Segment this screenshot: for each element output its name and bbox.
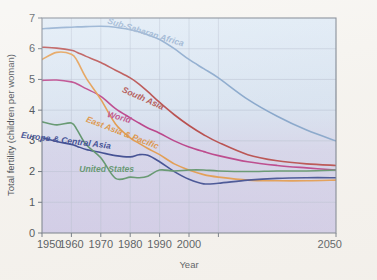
series-label-united-states: United States [79, 164, 134, 174]
x-tick-label: 1960 [59, 238, 83, 250]
x-tick-label: 2050 [318, 238, 342, 250]
x-tick-label: 1950 [37, 238, 61, 250]
y-tick-label: 0 [29, 227, 35, 239]
y-tick-label: 7 [29, 12, 35, 24]
x-axis-title: Year [179, 259, 198, 270]
y-tick-label: 4 [29, 104, 35, 116]
chart-canvas: 1950196019701980199020002050 01234567 Su… [0, 0, 377, 280]
fertility-line-chart: 1950196019701980199020002050 01234567 Su… [0, 0, 377, 280]
x-tick-label: 1990 [147, 238, 171, 250]
chart-figure: 1950196019701980199020002050 01234567 Su… [0, 0, 377, 280]
y-axis-title: Total fertility (children per woman) [5, 54, 16, 196]
y-tick-label: 2 [29, 165, 35, 177]
y-tick-label: 1 [29, 196, 35, 208]
x-tick-label: 2000 [177, 238, 201, 250]
x-tick-label: 1980 [118, 238, 142, 250]
y-tick-label: 5 [29, 73, 35, 85]
x-tick-label: 1970 [89, 238, 113, 250]
y-tick-label: 6 [29, 42, 35, 54]
